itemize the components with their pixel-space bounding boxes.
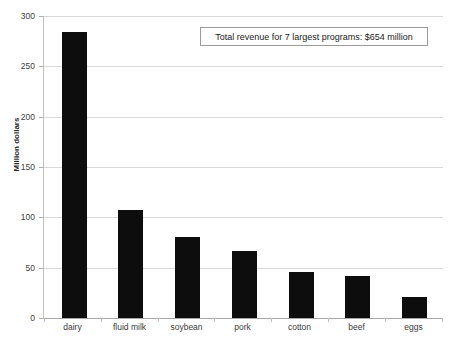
y-tick-label-300: 300: [5, 12, 35, 20]
bars-layer: [44, 16, 443, 318]
x-tick-label-eggs: eggs: [385, 322, 442, 332]
x-tick-mark: [442, 318, 443, 322]
bar-pork: [232, 251, 257, 318]
y-tick-label-250: 250: [5, 62, 35, 70]
bar-cotton: [289, 272, 314, 318]
y-tick-label-0: 0: [5, 314, 35, 322]
x-tick-label-cotton: cotton: [271, 322, 328, 332]
chart-title: [0, 0, 449, 2]
y-tick-label-100: 100: [5, 213, 35, 221]
x-tick-label-soybean: soybean: [158, 322, 215, 332]
x-axis-line: [44, 318, 443, 319]
y-axis-title: Million dollars: [12, 105, 21, 185]
x-tick-label-fluid-milk: fluid milk: [101, 322, 158, 332]
annotation-textbox: Total revenue for 7 largest programs: $6…: [200, 27, 428, 46]
x-tick-label-dairy: dairy: [44, 322, 101, 332]
x-tick-label-beef: beef: [328, 322, 385, 332]
bar-fluid-milk: [118, 210, 143, 318]
bar-eggs: [402, 297, 427, 318]
x-tick-label-pork: pork: [214, 322, 271, 332]
y-tick-label-50: 50: [5, 264, 35, 272]
bar-chart: 300 250 200 150 100 50 0 Million dollars…: [0, 0, 449, 342]
bar-dairy: [62, 32, 87, 318]
bar-beef: [345, 276, 370, 318]
bar-soybean: [175, 237, 200, 319]
